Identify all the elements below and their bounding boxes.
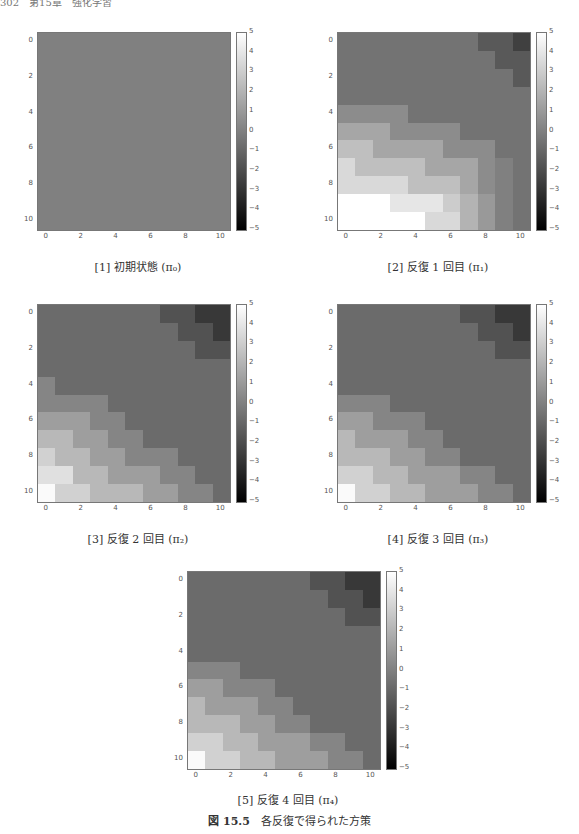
figure-label: 図 15.5: [208, 815, 250, 828]
heatmap-cell: [160, 305, 177, 323]
y-tick-label: 4: [319, 380, 333, 388]
heatmap-cell: [443, 323, 460, 341]
heatmap-cell: [460, 412, 477, 430]
heatmap-cell: [275, 626, 292, 644]
heatmap-cell: [373, 359, 390, 377]
heatmap-cell: [443, 412, 460, 430]
heatmap-cell: [275, 644, 292, 662]
heatmap-cell: [160, 51, 177, 69]
heatmap-cell: [143, 123, 160, 141]
heatmap-cell: [205, 679, 222, 697]
heatmap-cell: [293, 608, 310, 626]
heatmap-cell: [258, 715, 275, 733]
heatmap-cell: [328, 626, 345, 644]
heatmap-cell: [240, 644, 257, 662]
heatmap-cell: [143, 359, 160, 377]
heatmap-cell: [443, 194, 460, 212]
heatmap-cell: [355, 395, 372, 413]
heatmap-cell: [495, 466, 512, 484]
heatmap-cell: [143, 448, 160, 466]
heatmap-cell: [125, 33, 142, 51]
heatmap-cell: [73, 430, 90, 448]
heatmap-cell: [425, 87, 442, 105]
heatmap-cell: [188, 644, 205, 662]
colorbar-tick-label: −4: [549, 204, 559, 212]
heatmap-cell: [195, 484, 212, 502]
heatmap-cell: [373, 194, 390, 212]
colorbar-tick-label: −4: [549, 476, 559, 484]
heatmap-cell: [390, 395, 407, 413]
heatmap-cell: [38, 194, 55, 212]
heatmap-cell: [160, 466, 177, 484]
heatmap-cell: [328, 644, 345, 662]
y-tick-label: 6: [19, 143, 33, 151]
heatmap-cell: [425, 69, 442, 87]
heatmap-cell: [108, 158, 125, 176]
colorbar-tick-label: −2: [249, 165, 259, 173]
heatmap-cell: [38, 140, 55, 158]
heatmap-cell: [143, 430, 160, 448]
heatmap-cell: [160, 359, 177, 377]
heatmap-cell: [90, 448, 107, 466]
heatmap-cell: [90, 123, 107, 141]
heatmap-cell: [355, 448, 372, 466]
heatmap-cell: [478, 51, 495, 69]
heatmap-cell: [223, 751, 240, 769]
heatmap-cell: [355, 123, 372, 141]
heatmap-cell: [443, 466, 460, 484]
heatmap-cell: [240, 679, 257, 697]
heatmap-cell: [108, 359, 125, 377]
heatmap-cell: [513, 430, 530, 448]
heatmap-cell: [328, 662, 345, 680]
heatmap-cell: [408, 395, 425, 413]
heatmap-cell: [478, 33, 495, 51]
colorbar-tick-label: −1: [549, 417, 559, 425]
panel-caption-1: [1] 初期状態 (π₀): [27, 258, 249, 274]
heatmap-cell: [338, 87, 355, 105]
heatmap-cell: [213, 412, 230, 430]
heatmap-cell: [195, 194, 212, 212]
heatmap-cell: [310, 715, 327, 733]
heatmap-cell: [90, 305, 107, 323]
heatmap-cell: [125, 305, 142, 323]
heatmap-cell: [408, 484, 425, 502]
heatmap-cell: [338, 430, 355, 448]
x-tick-label: 4: [409, 504, 423, 512]
heatmap-cell: [373, 158, 390, 176]
heatmap-cell: [108, 305, 125, 323]
x-tick-label: 8: [478, 504, 492, 512]
colorbar-tick-label: −4: [399, 743, 409, 751]
heatmap-cell: [55, 33, 72, 51]
heatmap-cell: [195, 305, 212, 323]
heatmap-cell: [293, 572, 310, 590]
heatmap-cell: [125, 176, 142, 194]
colorbar-tick-label: 5: [549, 27, 553, 35]
heatmap-cell: [425, 359, 442, 377]
heatmap-cell: [240, 590, 257, 608]
heatmap-cell: [90, 69, 107, 87]
heatmap-cell: [338, 33, 355, 51]
heatmap-cell: [443, 377, 460, 395]
heatmap-cell: [443, 359, 460, 377]
colorbar-tick-label: −1: [249, 417, 259, 425]
heatmap-cell: [425, 484, 442, 502]
heatmap-cell: [143, 395, 160, 413]
heatmap-cell: [478, 484, 495, 502]
heatmap-cell: [345, 608, 362, 626]
heatmap-cell: [363, 733, 380, 751]
colorbar-tick-label: −2: [549, 165, 559, 173]
heatmap-cell: [258, 608, 275, 626]
heatmap-cell: [460, 448, 477, 466]
heatmap-cell: [178, 176, 195, 194]
heatmap-cell: [160, 323, 177, 341]
heatmap-cell: [310, 572, 327, 590]
heatmap-cell: [443, 430, 460, 448]
heatmap-cell: [160, 176, 177, 194]
heatmap-cell: [478, 87, 495, 105]
heatmap-cell: [213, 33, 230, 51]
y-tick-label: 4: [19, 380, 33, 388]
heatmap-cell: [460, 212, 477, 230]
heatmap-cell: [363, 572, 380, 590]
heatmap-cell: [195, 377, 212, 395]
heatmap-cell: [73, 158, 90, 176]
